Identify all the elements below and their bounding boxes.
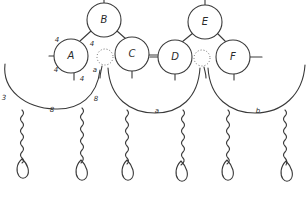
right-inner-stem — [204, 67, 206, 78]
node-d[interactable] — [158, 40, 192, 74]
chains — [17, 108, 292, 181]
dotted-circle-right — [194, 50, 210, 66]
dotted-circle-left — [97, 49, 113, 65]
middle-arc — [108, 68, 200, 113]
node-a[interactable] — [54, 39, 88, 73]
chain-6 — [281, 110, 292, 181]
node-b[interactable] — [87, 3, 121, 37]
node-f[interactable] — [216, 40, 250, 74]
right-arc — [208, 65, 305, 113]
chain-4 — [176, 110, 187, 181]
left-inner-stem — [100, 66, 102, 78]
chain-1 — [17, 110, 28, 178]
diagram-canvas — [0, 0, 307, 203]
chain-3 — [122, 110, 133, 180]
node-e[interactable] — [188, 5, 222, 39]
chain-2 — [76, 108, 87, 180]
left-arc — [5, 64, 100, 109]
chain-5 — [222, 110, 233, 180]
node-c[interactable] — [115, 37, 149, 71]
